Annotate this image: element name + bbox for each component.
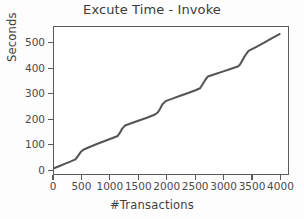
y-tick-label: 500 <box>25 37 45 47</box>
y-tick-label: 200 <box>25 114 45 124</box>
y-tick-label: 400 <box>25 63 45 73</box>
y-axis-tick-labels: 0100200300400500 <box>0 0 45 219</box>
x-tick-label: 3500 <box>232 181 272 192</box>
x-tick-mark <box>195 175 196 180</box>
x-tick-mark <box>52 175 53 180</box>
data-line-svg <box>54 27 288 174</box>
x-tick-mark <box>251 175 252 180</box>
chart-figure: Excute Time - Invoke Seconds #Transactio… <box>0 0 304 219</box>
chart-title: Excute Time - Invoke <box>0 2 304 17</box>
x-tick-label: 2500 <box>175 181 215 192</box>
x-tick-mark <box>81 175 82 180</box>
x-tick-label: 1500 <box>118 181 158 192</box>
x-tick-label: 500 <box>61 181 101 192</box>
y-tick-label: 100 <box>25 139 45 149</box>
x-tick-mark <box>223 175 224 180</box>
x-axis-label: #Transactions <box>0 198 304 212</box>
x-tick-mark <box>166 175 167 180</box>
x-tick-mark <box>109 175 110 180</box>
x-tick-label: 1000 <box>90 181 130 192</box>
x-tick-mark <box>138 175 139 180</box>
x-tick-label: 4000 <box>260 181 300 192</box>
x-tick-label: 2000 <box>147 181 187 192</box>
y-tick-label: 0 <box>38 165 45 175</box>
series-line-invoke <box>54 34 280 168</box>
y-tick-label: 300 <box>25 88 45 98</box>
plot-area <box>53 26 289 175</box>
x-tick-mark <box>280 175 281 180</box>
x-tick-label: 3000 <box>204 181 244 192</box>
